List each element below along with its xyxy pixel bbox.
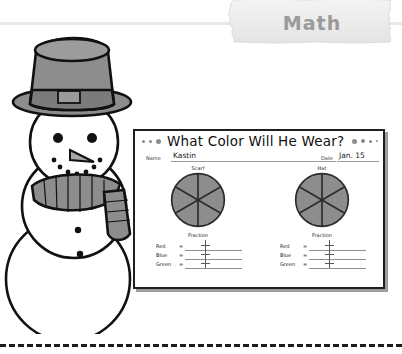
fraction-row: Green = [280, 259, 366, 268]
fraction-answer-blank[interactable] [185, 259, 242, 269]
fraction-color-label: Blue [280, 252, 301, 258]
decorative-dot-icon [142, 140, 145, 143]
fraction-equals: = [177, 243, 185, 249]
fraction-row: Green = [156, 259, 242, 268]
worksheet-page: Math [0, 0, 402, 354]
fraction-color-label: Red [280, 243, 301, 249]
pie-chart-scarf[interactable] [170, 172, 226, 228]
fraction-bar-icon [325, 258, 334, 268]
fraction-equals: = [301, 243, 309, 249]
fraction-answer-blank[interactable] [309, 259, 366, 269]
title-dots-right [352, 139, 378, 144]
name-input-line[interactable] [171, 161, 336, 162]
worksheet-title-row: What Color Will He Wear? [135, 133, 383, 149]
decorative-dot-icon [369, 140, 372, 143]
date-label: Date [321, 155, 333, 161]
math-banner-label: Math [226, 0, 398, 46]
name-date-row: Name Kastin Date Jan. 15 [135, 150, 383, 163]
fraction-color-label: Green [156, 261, 177, 267]
name-label: Name [146, 155, 161, 161]
date-input-line[interactable] [337, 161, 379, 162]
decorative-dot-icon [149, 140, 152, 143]
fraction-equals: = [301, 252, 309, 258]
panel-hat: Hat Fraction Red [263, 165, 381, 287]
fraction-equals: = [177, 252, 185, 258]
fraction-color-label: Blue [156, 252, 177, 258]
page-title: What Color Will He Wear? [167, 133, 344, 149]
dashed-cut-line [0, 344, 402, 347]
panel-hat-fraction-table: Red = Blue = [280, 241, 366, 268]
fraction-equals: = [301, 261, 309, 267]
name-value[interactable]: Kastin [173, 151, 196, 160]
pie-chart-hat[interactable] [294, 172, 350, 228]
math-banner: Math [226, 0, 398, 46]
fraction-equals: = [177, 261, 185, 267]
fraction-bar-icon [201, 258, 210, 268]
decorative-dot-icon [156, 139, 161, 144]
decorative-dot-icon [376, 140, 378, 142]
panel-scarf-heading: Scarf [139, 165, 257, 171]
fraction-color-label: Red [156, 243, 177, 249]
decorative-dot-icon [352, 139, 357, 144]
panel-scarf-fraction-heading: Fraction [139, 232, 257, 238]
decorative-dot-icon [361, 139, 365, 143]
date-value[interactable]: Jan. 15 [339, 151, 365, 160]
panel-hat-fraction-heading: Fraction [263, 232, 381, 238]
worksheet-card: What Color Will He Wear? Name Kastin Dat… [133, 129, 385, 289]
panel-scarf: Scarf Fraction Red [139, 165, 257, 287]
fraction-color-label: Green [280, 261, 301, 267]
title-dots-left [142, 139, 161, 144]
panel-scarf-fraction-table: Red = Blue = [156, 241, 242, 268]
panel-hat-heading: Hat [263, 165, 381, 171]
